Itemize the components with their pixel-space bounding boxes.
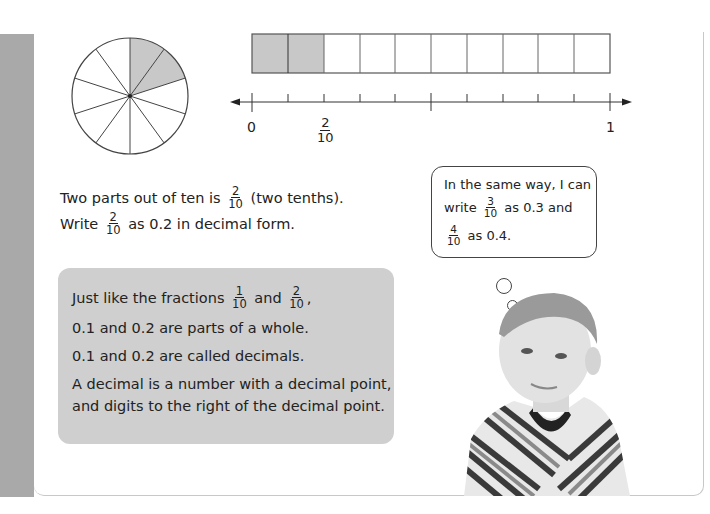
fraction: 210 [105, 211, 122, 236]
fraction: 210 [227, 185, 244, 210]
info-line-2: 0.1 and 0.2 are parts of a whole. [72, 320, 309, 336]
fraction: 210 [288, 285, 305, 310]
bubble-line-3: 410 as 0.4. [444, 225, 511, 248]
fraction: 110 [231, 285, 248, 310]
bubble-line-1: In the same way, I can [444, 177, 591, 192]
fraction-two-tenths: 2 10 [316, 116, 335, 145]
info-line-1: Just like the fractions 110 and 210, [72, 286, 311, 311]
thought-bubble: In the same way, I can write 310 as 0.3 … [431, 166, 597, 258]
definition-box: Just like the fractions 110 and 210, 0.1… [58, 268, 394, 444]
boy-photo [459, 289, 630, 496]
number-line-label-zero: 0 [247, 117, 256, 137]
fraction: 310 [483, 196, 498, 219]
explanation-line-2: Write 210 as 0.2 in decimal form. [60, 212, 295, 237]
number-line-label-one: 1 [606, 117, 615, 137]
bubble-line-2: write 310 as 0.3 and [444, 197, 572, 220]
explanation-line-1: Two parts out of ten is 210 (two tenths)… [60, 186, 344, 211]
pie-diagram [72, 38, 188, 154]
info-line-4: A decimal is a number with a decimal poi… [72, 376, 391, 392]
bar-diagram [252, 34, 610, 73]
fraction: 410 [446, 224, 461, 247]
number-line-label-two-tenths: 2 10 [314, 117, 337, 146]
info-line-5: and digits to the right of the decimal p… [72, 398, 385, 414]
info-line-3: 0.1 and 0.2 are called decimals. [72, 348, 304, 364]
number-line [230, 93, 632, 112]
